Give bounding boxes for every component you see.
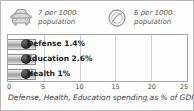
bar-row: Defense 1.4%: [8, 38, 187, 50]
stats-strip: 7 per 1000 population 6 per 1000 populat…: [1, 1, 194, 34]
bar-label: Health 1%: [27, 68, 70, 80]
plot-area: Defense 1.4%Education 2.6%Health 1%: [8, 35, 187, 81]
stat-text-telephones: 6 per 1000 population: [134, 9, 172, 26]
statistics-chart-widget: 7 per 1000 population 6 per 1000 populat…: [0, 0, 194, 111]
bar-row: Education 2.6%: [8, 53, 187, 65]
stat-unit-telephones: population: [134, 18, 172, 27]
car-icon: [8, 7, 34, 29]
x-tick-label: 20: [148, 83, 156, 91]
bar-label: Education 2.6%: [27, 53, 92, 65]
chart-caption: Defense, Health, Education spending as %…: [8, 93, 188, 102]
stat-value-cars: 7 per 1000: [38, 9, 76, 18]
stat-unit-cars: population: [38, 18, 76, 27]
bar-chart: Defense 1.4%Education 2.6%Health 1%: [7, 34, 188, 82]
x-tick-label: 0: [7, 83, 11, 91]
stat-text-cars: 7 per 1000 population: [38, 9, 76, 26]
x-tick-label: 15: [111, 83, 119, 91]
stat-item-telephones: 6 per 1000 population: [100, 1, 194, 34]
x-axis: 0510152025: [7, 82, 188, 92]
x-tick-label: 25: [180, 83, 188, 91]
stat-item-cars: 7 per 1000 population: [1, 1, 100, 34]
bar-row: Health 1%: [8, 68, 187, 80]
telephone-dial-icon: [104, 7, 130, 29]
bar-label: Defense 1.4%: [27, 38, 85, 50]
x-tick-label: 5: [41, 83, 45, 91]
stat-value-telephones: 6 per 1000: [134, 9, 172, 18]
x-tick-label: 10: [75, 83, 83, 91]
